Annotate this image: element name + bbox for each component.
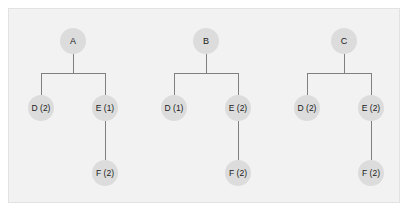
- tree-3-grandchild-f-label: F (2): [362, 169, 380, 178]
- tree-3-child-e-node[interactable]: E (2): [358, 95, 384, 121]
- tree-3-grandchild-f-node[interactable]: F (2): [358, 160, 384, 186]
- tree-3-root-label: C: [341, 37, 348, 46]
- tree-2-child-e-node[interactable]: E (2): [225, 95, 251, 121]
- tree-3-root-node[interactable]: C: [331, 28, 357, 54]
- tree-2-child-d-label: D (1): [165, 104, 184, 113]
- tree-2-grandchild-f-node[interactable]: F (2): [225, 160, 251, 186]
- tree-3-child-d-label: D (2): [298, 104, 317, 113]
- tree-2-child-e-label: E (2): [229, 104, 247, 113]
- tree-1-grandchild-f-label: F (2): [96, 169, 114, 178]
- tree-1-root-label: A: [70, 37, 76, 46]
- tree-1-root-node[interactable]: A: [60, 28, 86, 54]
- tree-1-child-e-label: E (1): [96, 104, 114, 113]
- diagram-canvas: A D (2) E (1) F (2) B D (1) E (2) F (2) …: [0, 0, 412, 214]
- tree-1-grandchild-f-node[interactable]: F (2): [92, 160, 118, 186]
- tree-1-child-d-label: D (2): [32, 104, 51, 113]
- tree-1-child-e-node[interactable]: E (1): [92, 95, 118, 121]
- tree-3-child-e-label: E (2): [362, 104, 380, 113]
- tree-1-child-d-node[interactable]: D (2): [28, 95, 54, 121]
- tree-2-root-node[interactable]: B: [193, 28, 219, 54]
- tree-2-root-label: B: [203, 37, 209, 46]
- tree-3-child-d-node[interactable]: D (2): [294, 95, 320, 121]
- tree-2-grandchild-f-label: F (2): [229, 169, 247, 178]
- tree-2-child-d-node[interactable]: D (1): [161, 95, 187, 121]
